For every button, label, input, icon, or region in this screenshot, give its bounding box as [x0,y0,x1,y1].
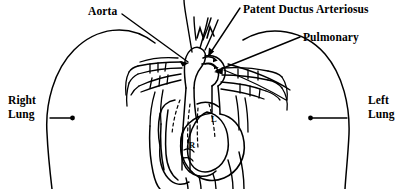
aorta-leader-line[interactable] [122,14,188,62]
superior-vessels [184,0,218,52]
label-pulmonary: Pulmonary [303,31,359,45]
right-ventricle-chamber [181,130,216,176]
anatomy-illustration [0,0,420,189]
label-right-ventricle: R [189,140,195,150]
label-aorta: Aorta [88,5,117,19]
label-patent-ductus-arteriosus: Patent Ductus Arteriosus [243,3,369,17]
label-right-lung: Right Lung [8,94,36,121]
right-lung-outline [47,30,155,189]
right-lung-leader-dot-icon [70,116,75,121]
left-lung-leader-dot-icon [308,116,313,121]
label-left-lung: Left Lung [368,94,395,121]
right-pulmonary-branches [129,58,182,95]
flow-arrow-icon [213,59,219,69]
pda-anatomical-diagram: Aorta Patent Ductus Arteriosus Pulmonary… [0,0,420,189]
pulmonary-leader-line[interactable] [216,37,300,71]
label-left-ventricle: L [211,114,217,124]
left-lung-outline [243,31,349,189]
